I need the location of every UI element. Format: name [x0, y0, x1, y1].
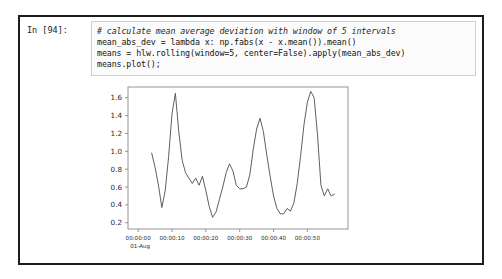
y-tick-label: 0.8: [111, 165, 123, 174]
y-tick-label: 1.4: [111, 111, 123, 120]
cell-output-area: 0.20.40.60.81.01.21.41.600:00:0000:00:10…: [20, 79, 482, 265]
execution-count-prompt: In [94]:: [20, 17, 91, 36]
code-input-area[interactable]: # calculate mean average deviation with …: [91, 21, 476, 76]
x-tick-label: 00:00:30: [227, 235, 253, 241]
code-line-2: mean_abs_dev = lambda x: np.fabs(x - x.m…: [97, 37, 470, 48]
x-tick-label: 00:00:50: [295, 235, 321, 241]
y-tick-label: 1.2: [111, 129, 122, 138]
data-series-line: [152, 91, 335, 217]
y-tick-label: 1.6: [111, 93, 123, 102]
y-tick-label: 0.2: [111, 218, 122, 227]
x-axis-date-label: 01-Aug: [130, 243, 150, 250]
code-line-3: means = hlw.rolling(window=5, center=Fal…: [97, 48, 470, 59]
y-tick-label: 0.6: [111, 183, 123, 192]
line-chart: 0.20.40.60.81.01.21.41.600:00:0000:00:10…: [76, 81, 356, 263]
x-tick-label: 00:00:10: [159, 235, 185, 241]
x-tick-label: 00:00:00: [126, 235, 152, 241]
code-line-1: # calculate mean average deviation with …: [97, 26, 470, 37]
y-tick-label: 0.4: [111, 200, 123, 209]
y-tick-label: 1.0: [111, 147, 123, 156]
notebook-screenshot: In [94]: # calculate mean average deviat…: [0, 0, 502, 279]
notebook-cell: In [94]: # calculate mean average deviat…: [18, 15, 484, 265]
x-tick-label: 00:00:40: [261, 235, 287, 241]
code-line-4: means.plot();: [97, 59, 470, 70]
cell-input-row: In [94]: # calculate mean average deviat…: [20, 17, 482, 76]
x-tick-label: 00:00:20: [193, 235, 219, 241]
matplotlib-figure: 0.20.40.60.81.01.21.41.600:00:0000:00:10…: [76, 81, 356, 263]
